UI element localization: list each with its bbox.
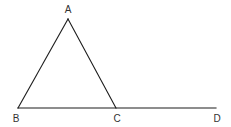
vertex-label-d: D	[213, 113, 220, 124]
segment-ab	[18, 19, 68, 108]
vertex-label-b: B	[13, 113, 20, 124]
vertex-label-c: C	[113, 113, 120, 124]
triangle-diagram-svg: A B C D	[0, 0, 231, 127]
segment-ac	[68, 19, 116, 108]
geometry-figure-canvas: A B C D	[0, 0, 231, 127]
vertex-label-a: A	[65, 4, 72, 15]
